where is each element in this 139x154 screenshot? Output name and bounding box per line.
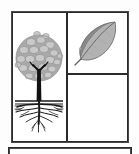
figure-canvas bbox=[0, 0, 139, 154]
cell-empty bbox=[68, 75, 127, 141]
empty-cell-area bbox=[68, 75, 127, 141]
figure-root: Tree and leaf diagram panel bbox=[0, 0, 139, 154]
tree-trunk bbox=[37, 70, 42, 101]
